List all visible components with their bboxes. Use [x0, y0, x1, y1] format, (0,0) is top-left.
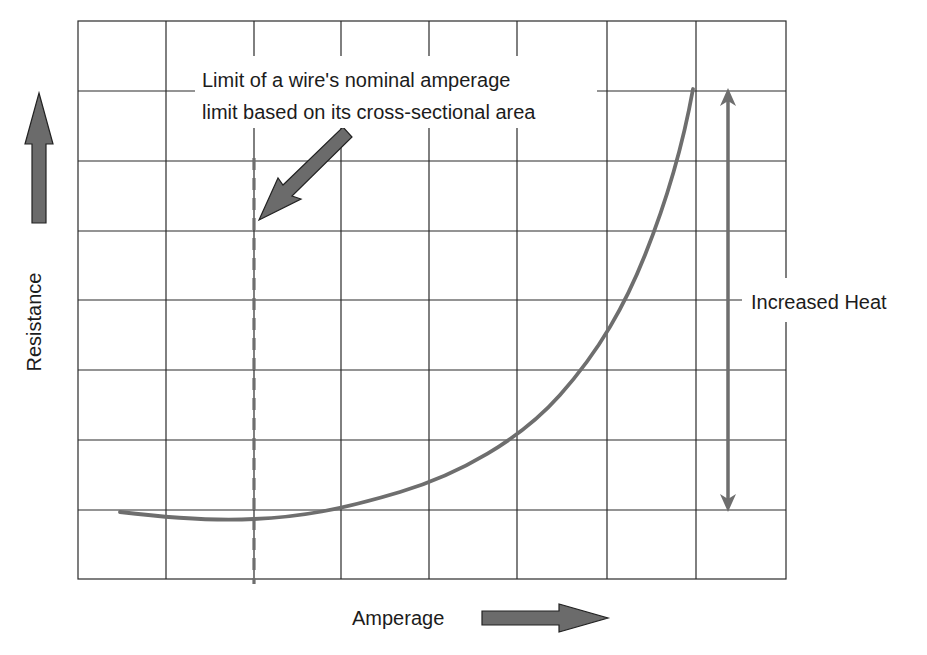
- x-axis-label: Amperage: [352, 608, 444, 628]
- nominal-limit-annotation: Limit of a wire's nominal amperage limit…: [202, 64, 541, 128]
- annotation-line-1: Limit of a wire's nominal amperage: [202, 64, 535, 96]
- increased-heat-label: Increased Heat: [749, 288, 889, 316]
- arrow-down-left-icon: [259, 127, 352, 220]
- arrow-right-icon: [482, 604, 608, 632]
- arrow-up-icon: [25, 93, 53, 223]
- y-axis-label: Resistance: [24, 273, 44, 372]
- annotation-line-2: limit based on its cross-sectional area: [202, 96, 535, 128]
